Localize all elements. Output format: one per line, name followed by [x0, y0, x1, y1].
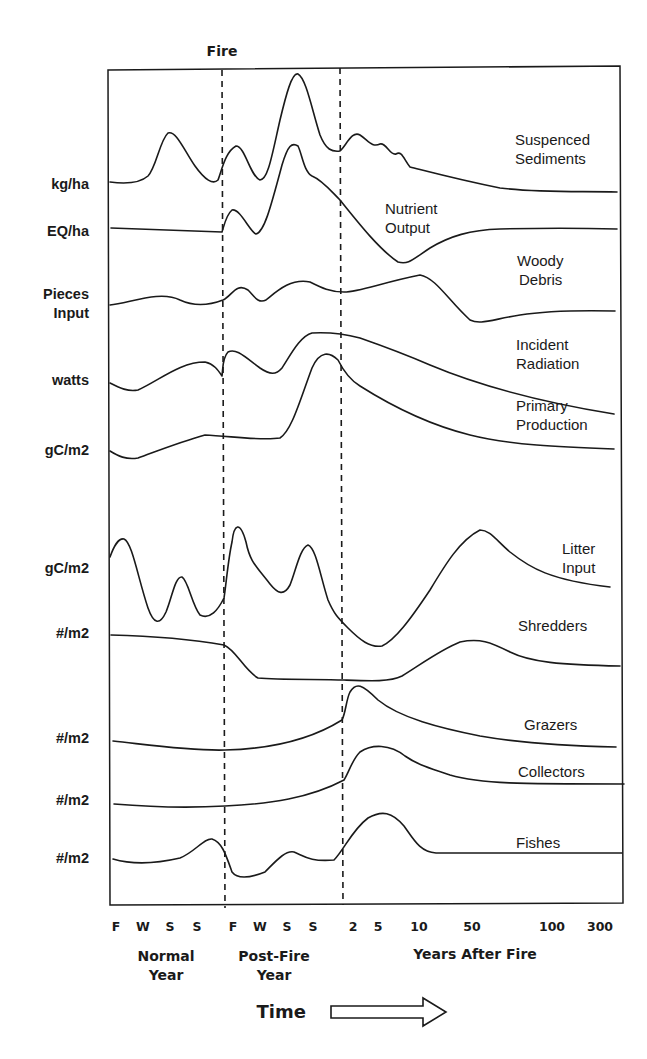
label-radiation-line1: Incident	[516, 336, 569, 353]
tick-year-10: 10	[410, 919, 428, 934]
group-postfire-year-line1: Post-Fire	[238, 948, 309, 964]
tick-year-2: 2	[349, 919, 358, 934]
group-normal-year-line1: Normal	[137, 948, 194, 964]
tick-postfire-f: F	[229, 919, 238, 934]
tick-year-5: 5	[374, 919, 383, 934]
time-arrow-icon	[331, 998, 446, 1026]
tick-normal-f: F	[112, 919, 121, 934]
label-shredders: Shredders	[518, 617, 587, 634]
unit-grazers: #/m2	[56, 730, 89, 746]
group-years-after-fire: Years After Fire	[412, 946, 537, 962]
label-litter-line2: Input	[562, 559, 596, 576]
label-fishes: Fishes	[516, 834, 560, 851]
tick-normal-s1: S	[165, 919, 174, 934]
unit-nutrient-output: EQ/ha	[47, 223, 90, 239]
time-label: Time	[257, 1001, 306, 1022]
unit-woody-debris-line1: Pieces	[43, 286, 89, 302]
tick-postfire-s2: S	[308, 919, 317, 934]
unit-litter-input: gC/m2	[45, 560, 89, 576]
tick-normal-w: W	[136, 919, 150, 934]
unit-fishes: #/m2	[56, 850, 89, 866]
tick-year-100: 100	[539, 919, 565, 934]
label-woody-line1: Woody	[517, 252, 564, 269]
label-suspended-line2: Sediments	[515, 150, 586, 167]
label-suspended-line1: Suspenced	[515, 131, 590, 148]
tick-year-50: 50	[463, 919, 481, 934]
group-normal-year-line2: Year	[148, 967, 184, 983]
unit-collectors: #/m2	[56, 792, 89, 808]
group-postfire-year-line2: Year	[256, 967, 292, 983]
label-collectors: Collectors	[518, 763, 585, 780]
label-nutrient-line1: Nutrient	[385, 200, 438, 217]
unit-shredders: #/m2	[56, 625, 89, 641]
label-nutrient-line2: Output	[385, 219, 431, 236]
tick-normal-s2: S	[192, 919, 201, 934]
unit-primary-production: gC/m2	[45, 442, 89, 458]
unit-incident-radiation: watts	[51, 372, 89, 388]
tick-year-300: 300	[587, 919, 613, 934]
label-litter-line1: Litter	[562, 540, 595, 557]
label-grazers: Grazers	[524, 716, 577, 733]
label-woody-line2: Debris	[519, 271, 562, 288]
label-radiation-line2: Radiation	[516, 355, 579, 372]
unit-woody-debris-line2: Input	[54, 305, 90, 321]
label-primary-line2: Production	[516, 416, 588, 433]
post-fire-year-end-dashed-line	[340, 68, 343, 905]
tick-postfire-s1: S	[282, 919, 291, 934]
fire-label: Fire	[207, 43, 238, 59]
tick-postfire-w: W	[253, 919, 267, 934]
ecosystem-response-diagram: Fire kg/ha EQ/ha Pieces Input watts gC/m…	[0, 0, 647, 1059]
unit-suspended-sediments: kg/ha	[51, 176, 90, 192]
fire-dashed-line	[222, 70, 225, 908]
